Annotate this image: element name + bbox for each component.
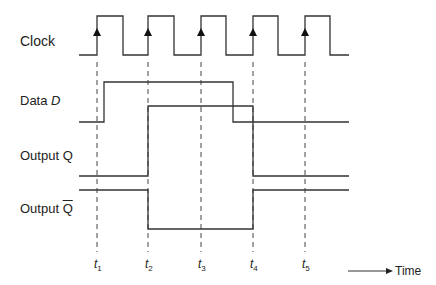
clock-edge-guides: [97, 62, 305, 252]
q-output-waveform: [79, 106, 349, 176]
time-axis-label: Time: [395, 264, 421, 278]
rising-edge-arrow-icon: [249, 28, 257, 36]
time-marker-t1: t1: [94, 257, 102, 273]
data-label-prefix: Data: [20, 93, 51, 108]
rising-edge-arrow-icons: [93, 28, 309, 36]
rising-edge-arrow-icon: [93, 28, 101, 36]
data-label-var: D: [51, 93, 60, 108]
qbar-label: Output Q: [20, 201, 73, 216]
clock-label: Clock: [20, 33, 55, 49]
time-arrow-icon: [348, 268, 393, 274]
time-marker-t2: t2: [145, 257, 153, 273]
timing-diagram: [0, 0, 436, 285]
data-waveform: [79, 82, 349, 122]
rising-edge-arrow-icon: [301, 28, 309, 36]
qbar-output-waveform: [79, 190, 349, 229]
rising-edge-arrow-icon: [197, 28, 205, 36]
data-label: Data D: [20, 93, 60, 108]
q-label: Output Q: [20, 148, 73, 163]
qbar-label-var: Q: [63, 201, 73, 216]
time-marker-t3: t3: [198, 257, 206, 273]
time-marker-t5: t5: [302, 257, 310, 273]
qbar-label-prefix: Output: [20, 201, 63, 216]
time-marker-t4: t4: [250, 257, 258, 273]
rising-edge-arrow-icon: [144, 28, 152, 36]
